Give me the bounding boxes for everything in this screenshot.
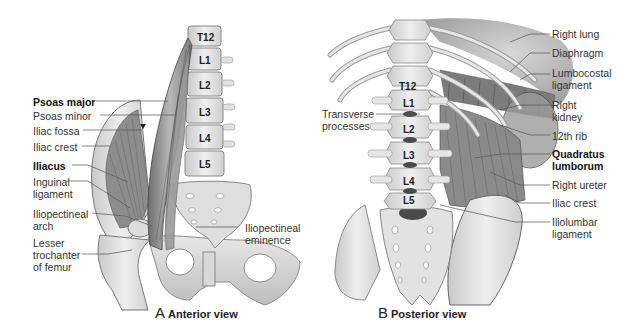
vertebra-label-l3-b: L3: [403, 150, 415, 161]
label-inguinal-ligament: Inguinal ligament: [33, 176, 73, 200]
label-iliolumbar-ligament: Iliolumbar ligament: [552, 216, 598, 240]
lumbar-spine-a: T12 L1 L2 L3 L4 L5: [185, 26, 235, 176]
vertebra-label-t12-b: T12: [399, 81, 417, 92]
label-iliopectineal-arch: Iliopectineal arch: [33, 208, 88, 232]
label-iliac-crest-a: Iliac crest: [33, 141, 77, 153]
label-iliac-fossa: Iliac fossa: [33, 125, 80, 137]
vertebra-label-l4-b: L4: [403, 176, 415, 187]
label-right-lung: Right lung: [552, 28, 599, 40]
label-iliacus: Iliacus: [33, 160, 66, 172]
vertebra-label-t12: T12: [197, 32, 215, 43]
vertebra-label-l4: L4: [199, 133, 211, 144]
label-quadratus-lumborum: Quadratus lumborum: [552, 148, 605, 172]
caption-letter-b: B: [378, 304, 388, 321]
vertebra-label-l3: L3: [199, 107, 211, 118]
label-lesser-trochanter: Lesser trochanter of femur: [33, 237, 80, 273]
vertebra-label-l5: L5: [199, 159, 211, 170]
label-12th-rib: 12th rib: [552, 130, 587, 142]
sacrum-b: [380, 206, 453, 305]
vertebra-label-l2-b: L2: [403, 124, 415, 135]
label-iliac-crest-b: Iliac crest: [552, 197, 596, 209]
vertebra-label-l2: L2: [199, 80, 211, 91]
label-psoas-minor: Psoas minor: [33, 110, 91, 122]
vertebra-label-l1-b: L1: [403, 98, 415, 109]
label-lumbocostal-ligament: Lumbocostal ligament: [552, 67, 612, 91]
label-iliopectineal-eminence: Iliopectineal eminence: [245, 222, 300, 246]
caption-anterior-view: AAnterior view: [155, 304, 238, 321]
label-right-kidney: Right kidney: [552, 99, 582, 123]
caption-text-a: Anterior view: [168, 308, 238, 320]
left-iliac-bone-b: [335, 205, 380, 300]
label-transverse-processes: Transverse processes: [322, 108, 374, 132]
caption-posterior-view: BPosterior view: [378, 304, 466, 321]
iliac-bone-b: [448, 195, 522, 305]
caption-letter-a: A: [155, 304, 165, 321]
vertebra-label-l5-b: L5: [403, 195, 415, 206]
label-diaphragm: Diaphragm: [552, 47, 603, 59]
label-right-ureter: Right ureter: [552, 179, 607, 191]
anterior-view-illustration: T12 L1 L2 L3 L4 L5: [0, 0, 644, 323]
vertebra-label-l1: L1: [199, 55, 211, 66]
label-psoas-major: Psoas major: [33, 96, 95, 108]
caption-text-b: Posterior view: [391, 308, 466, 320]
